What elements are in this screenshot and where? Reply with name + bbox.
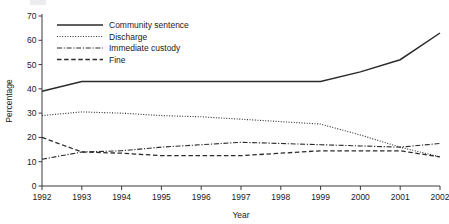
- series-line-3: [42, 137, 440, 156]
- x-axis-title: Year: [232, 210, 249, 220]
- y-tick-label: 10: [27, 157, 37, 167]
- y-tick-label: 0: [32, 181, 37, 191]
- legend-label-0: Community sentence: [109, 20, 189, 30]
- x-tick-label: 1997: [232, 192, 251, 202]
- x-tick-label: 1993: [72, 192, 91, 202]
- x-tick-label: 1995: [152, 192, 171, 202]
- y-axis-title: Percentage: [4, 79, 14, 123]
- y-tick-label: 70: [27, 11, 37, 21]
- x-tick-label: 1999: [311, 192, 330, 202]
- x-tick-label: 1994: [112, 192, 131, 202]
- line-chart: 0102030405060701992199319941995199619971…: [0, 0, 449, 224]
- y-tick-label: 40: [27, 84, 37, 94]
- x-tick-label: 1998: [271, 192, 290, 202]
- x-tick-label: 2002: [431, 192, 449, 202]
- y-tick-label: 30: [27, 108, 37, 118]
- y-tick-label: 60: [27, 35, 37, 45]
- chart-canvas: 0102030405060701992199319941995199619971…: [0, 0, 449, 224]
- y-tick-label: 20: [27, 132, 37, 142]
- clipped-title-fragment: [30, 0, 46, 5]
- y-tick-label: 50: [27, 60, 37, 70]
- x-tick-label: 2000: [351, 192, 370, 202]
- legend-label-1: Discharge: [109, 32, 148, 42]
- legend-label-3: Fine: [109, 55, 126, 65]
- legend-label-2: Immediate custody: [109, 43, 181, 53]
- series-line-0: [42, 33, 440, 91]
- x-tick-label: 1996: [192, 192, 211, 202]
- series-line-1: [42, 112, 440, 157]
- x-tick-label: 2001: [391, 192, 410, 202]
- x-tick-label: 1992: [33, 192, 52, 202]
